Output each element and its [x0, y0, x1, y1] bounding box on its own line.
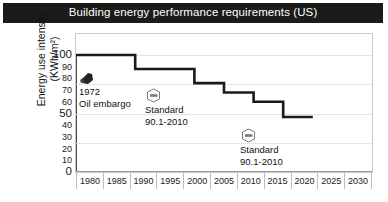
y-axis-tick-30: 30	[62, 132, 72, 141]
screenshot-root: Building energy performance requirements…	[0, 0, 388, 202]
y-axis-tick-0: 0	[66, 166, 72, 178]
y-axis-tick-70: 70	[62, 86, 72, 95]
plot-area: 1972 Oil embargo Standard 90.1-2010 Stan…	[76, 55, 372, 172]
annotation-ashrae-lower-line1: Standard	[240, 144, 283, 156]
x-axis-tick-2025: 2025	[318, 173, 345, 189]
y-axis-tick-10: 10	[62, 156, 72, 165]
x-axis-tick-2010: 2010	[238, 173, 265, 189]
x-axis-tick-1995: 1995	[157, 173, 184, 189]
y-axis-tick-50: 50	[59, 108, 72, 120]
y-axis-tick-80: 80	[62, 74, 72, 83]
ashrae-logo-icon	[240, 128, 257, 143]
annotation-ashrae-lower-line2: 90.1-2010	[240, 156, 283, 168]
y-axis-tick-60: 60	[62, 97, 72, 106]
x-axis-tick-1990: 1990	[131, 173, 158, 189]
oil-drop-icon	[79, 72, 95, 85]
y-axis-tick-90: 90	[62, 62, 72, 71]
x-axis-tick-2030: 2030	[345, 173, 372, 189]
annotation-ashrae-upper-line1: Standard	[145, 104, 188, 116]
annotation-ashrae-upper: Standard 90.1-2010	[145, 88, 188, 128]
x-axis-tick-1985: 1985	[104, 173, 131, 189]
x-axis-tick-2005: 2005	[211, 173, 238, 189]
x-axis-tick-2000: 2000	[184, 173, 211, 189]
annotation-ashrae-upper-line2: 90.1-2010	[145, 116, 188, 128]
y-axis-tick-100: 100	[53, 49, 72, 61]
annotation-oil-embargo: 1972 Oil embargo	[79, 72, 131, 110]
annotation-oil-embargo-text: Oil embargo	[79, 98, 131, 110]
y-axis-tick-labels: 0102030405060708090100	[40, 55, 72, 172]
x-axis-tick-2015: 2015	[265, 173, 292, 189]
annotation-ashrae-lower: Standard 90.1-2010	[240, 128, 283, 168]
ashrae-logo-icon	[145, 88, 162, 103]
x-axis-tick-2020: 2020	[292, 173, 319, 189]
x-axis-tick-1980: 1980	[76, 173, 104, 189]
page-title: Building energy performance requirements…	[69, 7, 318, 19]
y-axis-tick-40: 40	[62, 121, 72, 130]
y-axis-tick-20: 20	[62, 144, 72, 153]
x-axis-tick-labels: 1980198519901995200020052010201520202025…	[76, 173, 372, 189]
annotation-oil-embargo-year: 1972	[79, 86, 131, 98]
